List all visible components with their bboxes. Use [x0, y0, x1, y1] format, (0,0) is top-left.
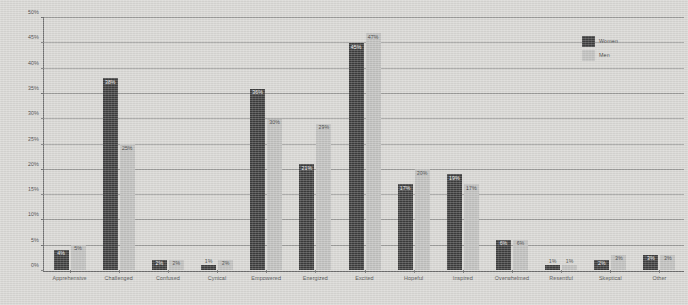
bar-value-label: 3% [615, 256, 623, 261]
y-axis-tick-label: 35% [28, 85, 39, 91]
bar-value-label: 2% [222, 261, 230, 266]
y-axis-tick-mark [41, 42, 44, 43]
grouped-bar-chart: 0%5%10%15%20%25%30%35%40%45%50% 4%5%Appr… [0, 0, 688, 305]
bar-group: 4%5%Apprehensive [45, 18, 94, 270]
bar-group: 38%25%Challenged [94, 18, 143, 270]
bar-value-label: 3% [664, 256, 672, 261]
y-axis-tick-mark [41, 270, 44, 271]
bar-men-inspired[interactable]: 17% [464, 184, 479, 270]
bar-men-other[interactable]: 3% [660, 255, 675, 270]
bar-women-apprehensive[interactable]: 4% [54, 250, 69, 270]
bar-value-label: 6% [500, 241, 508, 246]
bar-men-apprehensive[interactable]: 5% [71, 245, 86, 270]
bar-value-label: 21% [302, 166, 313, 171]
bar-men-excited[interactable]: 47% [366, 33, 381, 270]
y-axis-tick-mark [41, 118, 44, 119]
x-axis-tick-mark [315, 270, 316, 273]
bar-men-challenged[interactable]: 25% [120, 144, 135, 270]
x-axis-tick-label: Inspired [453, 275, 473, 281]
bar-value-label: 6% [517, 241, 525, 246]
bar-women-challenged[interactable]: 38% [103, 78, 118, 270]
x-axis-tick-label: Energized [303, 275, 328, 281]
bar-value-label: 38% [105, 80, 116, 85]
bar-men-skeptical[interactable]: 3% [611, 255, 626, 270]
bar-group: 17%20%Hopeful [389, 18, 438, 270]
bar-group: 1%2%Cynical [192, 18, 241, 270]
bar-women-hopeful[interactable]: 17% [398, 184, 413, 270]
x-axis-tick-mark [119, 270, 120, 273]
bar-men-overwhelmed[interactable]: 6% [513, 240, 528, 270]
women-swatch-icon [582, 36, 595, 47]
bar-value-label: 2% [598, 261, 606, 266]
y-axis-tick-mark [41, 245, 44, 246]
x-axis-tick-label: Skeptical [599, 275, 622, 281]
bar-value-label: 20% [417, 171, 428, 176]
x-axis-tick-label: Hopeful [404, 275, 423, 281]
bar-value-label: 25% [122, 146, 133, 151]
x-axis-tick-mark [365, 270, 366, 273]
bar-value-label: 36% [252, 90, 263, 95]
y-axis-tick-label: 25% [28, 136, 39, 142]
bar-value-label: 29% [319, 125, 330, 130]
legend-label-women: Women [599, 38, 618, 44]
bar-value-label: 5% [74, 246, 82, 251]
y-axis-tick-label: 15% [28, 186, 39, 192]
bar-value-label: 30% [269, 120, 280, 125]
x-axis-tick-label: Overwhelmed [495, 275, 529, 281]
x-axis-tick-mark [168, 270, 169, 273]
y-axis-tick-label: 10% [28, 211, 39, 217]
y-axis-tick-mark [41, 144, 44, 145]
x-axis-tick-mark [512, 270, 513, 273]
legend-label-men: Men [599, 52, 610, 58]
bar-men-energized[interactable]: 29% [316, 124, 331, 270]
bar-women-skeptical[interactable]: 2% [594, 260, 609, 270]
x-axis-tick-label: Excited [355, 275, 373, 281]
y-axis-tick-label: 45% [28, 34, 39, 40]
bar-women-resentful[interactable]: 1% [545, 265, 560, 270]
bar-women-inspired[interactable]: 19% [447, 174, 462, 270]
bar-group: 45%47%Excited [340, 18, 389, 270]
bar-women-other[interactable]: 3% [643, 255, 658, 270]
x-axis-tick-mark [414, 270, 415, 273]
y-axis-tick-label: 20% [28, 161, 39, 167]
legend-item-women[interactable]: Women [582, 34, 646, 48]
x-axis-tick-label: Empowered [251, 275, 281, 281]
bar-value-label: 1% [205, 259, 213, 264]
bar-value-label: 2% [173, 261, 181, 266]
bar-value-label: 3% [647, 256, 655, 261]
x-axis-tick-mark [659, 270, 660, 273]
bar-group: 36%30%Empowered [242, 18, 291, 270]
bar-women-confused[interactable]: 2% [152, 260, 167, 270]
chart-legend: Women Men [582, 34, 646, 62]
bar-value-label: 19% [449, 176, 460, 181]
x-axis-tick-mark [266, 270, 267, 273]
bar-women-energized[interactable]: 21% [299, 164, 314, 270]
y-axis-tick-mark [41, 219, 44, 220]
y-axis-tick-mark [41, 17, 44, 18]
bar-value-label: 17% [400, 186, 411, 191]
y-axis-tick-mark [41, 169, 44, 170]
bar-men-resentful[interactable]: 1% [562, 265, 577, 270]
x-axis-tick-mark [463, 270, 464, 273]
bar-men-hopeful[interactable]: 20% [415, 169, 430, 270]
bar-women-cynical[interactable]: 1% [201, 265, 216, 270]
bar-value-label: 1% [566, 259, 574, 264]
bar-men-empowered[interactable]: 30% [267, 119, 282, 270]
bar-men-confused[interactable]: 2% [169, 260, 184, 270]
y-axis-tick-label: 50% [28, 9, 39, 15]
bar-group: 1%1%Resentful [537, 18, 586, 270]
bar-women-excited[interactable]: 45% [349, 43, 364, 270]
y-axis-tick-label: 40% [28, 60, 39, 66]
bar-women-empowered[interactable]: 36% [250, 89, 265, 270]
x-axis-tick-label: Confused [156, 275, 180, 281]
x-axis-tick-mark [70, 270, 71, 273]
y-axis-tick-mark [41, 194, 44, 195]
x-axis-tick-mark [217, 270, 218, 273]
y-axis-tick-mark [41, 93, 44, 94]
x-axis-tick-mark [610, 270, 611, 273]
bar-value-label: 2% [156, 261, 164, 266]
y-axis-tick-label: 30% [28, 110, 39, 116]
bar-men-cynical[interactable]: 2% [218, 260, 233, 270]
bar-women-overwhelmed[interactable]: 6% [496, 240, 511, 270]
legend-item-men[interactable]: Men [582, 48, 646, 62]
